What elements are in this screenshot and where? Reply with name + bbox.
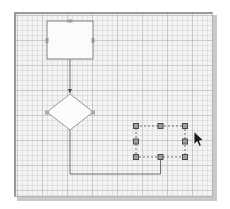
handle-middle-right[interactable] xyxy=(183,139,188,144)
selected-node-outline[interactable] xyxy=(136,126,185,157)
handle-top-center[interactable] xyxy=(158,124,163,129)
canvas-vector-layer xyxy=(16,14,213,197)
selection-handles[interactable] xyxy=(134,124,188,160)
decision-node-body[interactable] xyxy=(47,94,93,130)
connection-point-right[interactable] xyxy=(92,38,95,43)
handle-bottom-left[interactable] xyxy=(134,155,139,160)
shape-decision-node[interactable] xyxy=(45,94,95,130)
connector-decision-to-selected[interactable] xyxy=(70,130,161,174)
handle-top-right[interactable] xyxy=(183,124,188,129)
screen-root xyxy=(0,0,230,209)
handle-middle-left[interactable] xyxy=(134,139,139,144)
connector-path[interactable] xyxy=(70,130,161,174)
shape-process-node[interactable] xyxy=(46,20,95,60)
shape-selected-node[interactable] xyxy=(134,124,188,160)
connection-point-left[interactable] xyxy=(46,38,49,43)
handle-bottom-center[interactable] xyxy=(158,155,163,160)
handle-bottom-right[interactable] xyxy=(183,155,188,160)
drawing-canvas[interactable] xyxy=(14,12,213,197)
connection-point-top[interactable] xyxy=(68,20,73,23)
connection-point-left[interactable] xyxy=(45,111,49,115)
process-node-body[interactable] xyxy=(47,21,93,59)
handle-top-left[interactable] xyxy=(134,124,139,129)
connection-point-right[interactable] xyxy=(91,111,95,115)
